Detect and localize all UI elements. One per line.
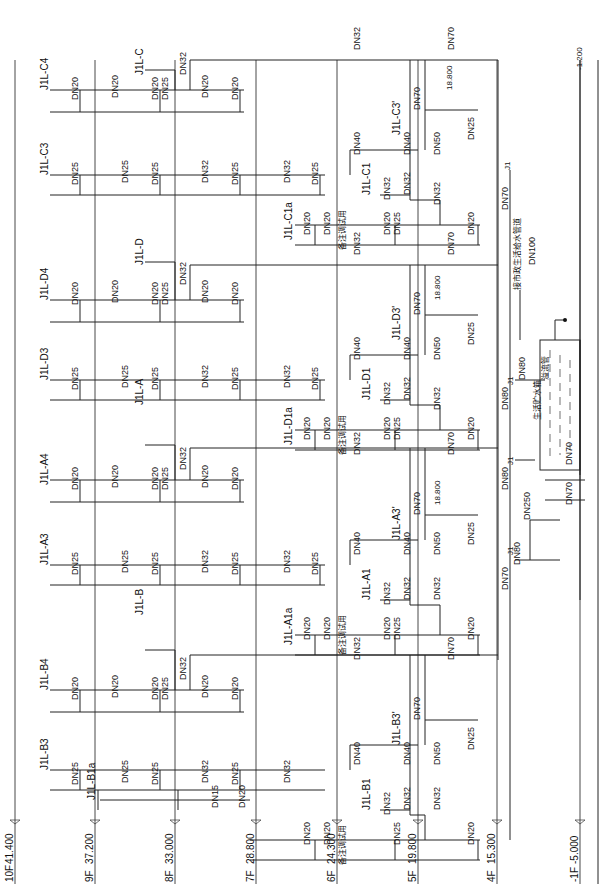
riser-label: J1L-B xyxy=(134,589,145,615)
pipe-size-label: DN25 xyxy=(120,760,130,783)
pipe-size-label: DN32 xyxy=(402,172,412,195)
pipe-size-label: DN32 xyxy=(178,657,188,680)
pipe-size-label: DN32 xyxy=(382,582,392,605)
pipe-size-label: DN20 xyxy=(230,467,240,490)
pipe-size-label: DN32 xyxy=(178,447,188,470)
pipe-size-label: DN40 xyxy=(402,532,412,555)
pipe-size-label: DN32 xyxy=(382,792,392,815)
pipe-size-label: DN20 xyxy=(200,75,210,98)
pipe-size-label: DN25 xyxy=(150,762,160,785)
annotation: 溢流管 xyxy=(540,356,550,380)
riser-label: J1L-D1a xyxy=(283,407,294,445)
pipe-size-label: DN250 xyxy=(522,492,532,520)
pipe-size-label: DN70 xyxy=(446,27,456,50)
pipe-size-label: DN25 xyxy=(230,367,240,390)
pipe-size-label: DN70 xyxy=(412,492,422,515)
floor-elevation: 37.200 xyxy=(84,833,95,864)
pipe-size-label: DN20 xyxy=(110,75,120,98)
pipe-size-label: DN20 xyxy=(382,212,392,235)
pipe-size-label: DN50 xyxy=(432,742,442,765)
pipe-size-label: DN25 xyxy=(150,367,160,390)
pipe-size-label: DN20 xyxy=(237,785,247,808)
riser-label: J1L-B3 xyxy=(39,738,50,770)
pipe-size-label: DN70 xyxy=(412,87,422,110)
pipe-size-label: DN40 xyxy=(402,337,412,360)
pipe-size-label: DN32 xyxy=(178,52,188,75)
pipe-size-label: DN25 xyxy=(392,417,402,440)
pipe-size-label: DN32 xyxy=(432,182,442,205)
pipe-size-label: DN20 xyxy=(230,677,240,700)
pipe-size-label: DN32 xyxy=(200,365,210,388)
pipe-size-label: DN32 xyxy=(352,27,362,50)
riser-label: J1L-C xyxy=(134,48,145,75)
pipe-size-label: DN70 xyxy=(500,567,510,590)
riser-label: J1L-D3 xyxy=(39,347,50,380)
pipe-size-label: DN32 xyxy=(402,377,412,400)
pipe-size-label: DN25 xyxy=(466,117,476,140)
pipe-size-label: DN32 xyxy=(282,760,292,783)
pipe-size-label: DN20 xyxy=(230,77,240,100)
pipe-size-label: DN20 xyxy=(466,617,476,640)
floor-elevation: 19.800 xyxy=(407,833,418,864)
pipe-size-label: DN40 xyxy=(402,132,412,155)
annotation: 18.800 xyxy=(433,480,442,505)
pipe-size-label: DN50 xyxy=(432,337,442,360)
pipe-size-label: DN20 xyxy=(302,822,312,845)
pipe-size-label: DN70 xyxy=(446,232,456,255)
pipe-size-label: DN20 xyxy=(150,467,160,490)
pipe-size-label: DN20 xyxy=(70,467,80,490)
pipe-size-label: DN32 xyxy=(200,760,210,783)
annotation: 18.800 xyxy=(445,65,454,90)
annotation: J1 xyxy=(506,376,515,385)
pipe-size-label: DN20 xyxy=(200,280,210,303)
pipe-size-label: DN20 xyxy=(466,822,476,845)
pipe-size-label: DN20 xyxy=(110,465,120,488)
riser-label: J1L-D1 xyxy=(361,367,372,400)
pipe-size-label: DN20 xyxy=(110,280,120,303)
riser-label: J1L-D xyxy=(134,238,145,265)
floor-label: 6F xyxy=(326,870,337,882)
pipe-size-label: DN70 xyxy=(412,697,422,720)
floor-elevation: 15.300 xyxy=(486,833,497,864)
riser-label: J1L-C4 xyxy=(39,57,50,90)
annotation: -1.200 xyxy=(575,47,584,70)
pipe-size-label: DN32 xyxy=(200,160,210,183)
pipe-size-label: DN20 xyxy=(302,212,312,235)
riser-label: J1L-C3' xyxy=(391,101,402,135)
pipe-size-label: DN20 xyxy=(302,617,312,640)
riser-label: J1L-A4 xyxy=(39,453,50,485)
pipe-size-label: DN32 xyxy=(352,432,362,455)
pipe-size-label: DN20 xyxy=(110,675,120,698)
pipe-size-label: DN25 xyxy=(120,365,130,388)
pipe-size-label: DN70 xyxy=(446,432,456,455)
annotation: 接市政生活给水管道 xyxy=(512,218,522,290)
riser-label: J1L-A xyxy=(134,379,145,405)
floor-elevation: 33.000 xyxy=(164,833,175,864)
pipe-size-label: DN25 xyxy=(70,367,80,390)
pipe-size-label: DN20 xyxy=(466,212,476,235)
floor-label: 8F xyxy=(164,870,175,882)
pipe-size-label: DN80 xyxy=(500,387,510,410)
annotation: 备注调试用 xyxy=(337,415,347,455)
pipe-size-label: DN25 xyxy=(70,552,80,575)
pipe-size-label: DN25 xyxy=(160,677,170,700)
pipe-size-label: DN70 xyxy=(500,187,510,210)
pipe-size-label: DN70 xyxy=(564,482,574,505)
riser-label: J1L-A1a xyxy=(283,607,294,645)
riser-label: J1L-C1a xyxy=(283,202,294,240)
pipe-size-label: DN25 xyxy=(392,822,402,845)
pipe-size-label: DN70 xyxy=(412,292,422,315)
pipe-size-label: DN32 xyxy=(282,550,292,573)
pipe-size-label: DN20 xyxy=(70,77,80,100)
floor-label: 10F xyxy=(4,865,15,882)
pipe-size-label: DN20 xyxy=(200,465,210,488)
floor-elevation: -5.000 xyxy=(569,835,580,864)
pipe-size-label: DN32 xyxy=(432,577,442,600)
pipe-size-label: DN25 xyxy=(230,552,240,575)
pipe-size-label: DN20 xyxy=(150,77,160,100)
pipe-size-label: DN20 xyxy=(230,282,240,305)
riser-label: J1L-B1a xyxy=(86,762,97,800)
pipe-size-label: DN25 xyxy=(392,212,402,235)
pipe-size-label: DN40 xyxy=(352,337,362,360)
riser-label: J1L-B1 xyxy=(361,778,372,810)
